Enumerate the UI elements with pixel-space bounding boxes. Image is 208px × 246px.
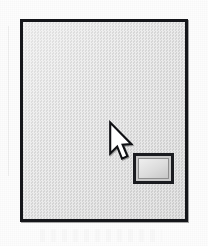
mouse-pointer-icon[interactable]: [107, 120, 133, 164]
scan-streak-artifact: [8, 26, 9, 176]
client-area-sheen: [23, 22, 185, 219]
scanned-figure-page: [0, 0, 208, 246]
window-client-area[interactable]: [23, 22, 185, 219]
bleed-through-ghost-text: [40, 229, 162, 242]
gui-window-frame[interactable]: [20, 19, 188, 222]
display-icon[interactable]: [133, 153, 174, 184]
display-icon-screen: [138, 158, 169, 179]
